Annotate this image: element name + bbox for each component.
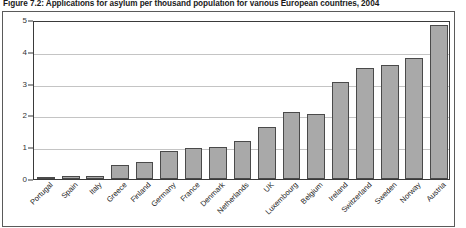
bar-fill [136, 162, 154, 179]
x-tick-label-austria: Austria [425, 181, 447, 203]
bar-fill [62, 176, 80, 179]
plot-area [33, 21, 450, 180]
bar-fill [234, 141, 252, 179]
bar-austria[interactable] [430, 22, 448, 179]
bar-fill [111, 165, 129, 179]
x-tick-label-greece: Greece [105, 181, 128, 204]
bar-luxembourg[interactable] [283, 22, 301, 179]
x-tick-label-uk: UK [262, 181, 275, 194]
bar-fill [283, 112, 301, 179]
bar-norway[interactable] [405, 22, 423, 179]
x-tick-label-italy: Italy [88, 181, 104, 197]
y-tick-label-3: 3 [23, 81, 27, 89]
x-tick-label-belgium: Belgium [300, 181, 325, 206]
figure-container: Figure 7.2: Applications for asylum per … [0, 0, 466, 228]
bar-fill [160, 151, 178, 179]
bar-belgium[interactable] [307, 22, 325, 179]
bar-ireland[interactable] [332, 22, 350, 179]
bar-fill [258, 127, 276, 179]
y-tick-label-5: 5 [23, 17, 27, 25]
bar-greece[interactable] [111, 22, 129, 179]
bar-switzerland[interactable] [356, 22, 374, 179]
bar-fill [37, 177, 55, 179]
y-tick-label-0: 0 [23, 176, 27, 184]
bar-spain[interactable] [62, 22, 80, 179]
bar-germany[interactable] [160, 22, 178, 179]
bar-sweden[interactable] [381, 22, 399, 179]
bar-series [34, 22, 449, 179]
bar-fill [209, 147, 227, 179]
y-tick-label-4: 4 [23, 49, 27, 57]
y-tick-label-2: 2 [23, 112, 27, 120]
x-tick-label-sweden: Sweden [373, 181, 398, 206]
bar-fill [381, 65, 399, 179]
bar-finland[interactable] [136, 22, 154, 179]
bar-portugal[interactable] [37, 22, 55, 179]
x-tick-label-portugal: Portugal [29, 181, 55, 207]
x-tick-label-norway: Norway [399, 181, 423, 205]
x-tick-label-spain: Spain [60, 181, 79, 200]
x-tick-label-germany: Germany [150, 181, 178, 209]
bar-italy[interactable] [86, 22, 104, 179]
bar-fill [356, 68, 374, 179]
bar-netherlands[interactable] [234, 22, 252, 179]
bar-denmark[interactable] [209, 22, 227, 179]
bar-fill [185, 148, 203, 179]
bar-fill [86, 176, 104, 179]
bar-fill [307, 114, 325, 179]
bar-fill [430, 25, 448, 179]
bar-uk[interactable] [258, 22, 276, 179]
bar-fill [405, 58, 423, 179]
y-axis: 012345 [0, 21, 33, 180]
y-tick-label-1: 1 [23, 144, 27, 152]
figure-title: Figure 7.2: Applications for asylum per … [3, 0, 465, 10]
bar-fill [332, 82, 350, 179]
bar-france[interactable] [185, 22, 203, 179]
x-axis-labels: PortugalSpainItalyGreeceFinlandGermanyFr… [33, 181, 450, 227]
